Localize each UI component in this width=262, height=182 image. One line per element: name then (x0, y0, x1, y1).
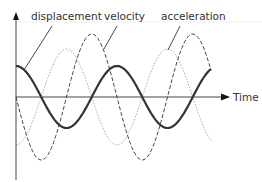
label-velocity: velocity (104, 10, 145, 22)
motion-graphs-diagram: displacement velocity acceleration Time (0, 0, 262, 182)
displacement-leader-line (24, 26, 52, 70)
acceleration-leader-line (168, 26, 180, 50)
label-acceleration: acceleration (161, 10, 226, 22)
leader-lines (24, 26, 180, 70)
label-displacement: displacement (31, 10, 102, 22)
velocity-leader-line (104, 26, 117, 49)
label-time: Time (232, 91, 259, 103)
y-axis-arrow-icon (13, 12, 19, 20)
x-axis-arrow-icon (221, 94, 230, 101)
